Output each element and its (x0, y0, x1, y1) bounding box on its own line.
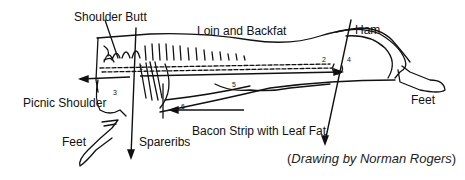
label-shoulder-butt: Shoulder Butt (74, 11, 147, 23)
cut-number-6: 6 (181, 103, 185, 110)
label-feet-rear: Feet (411, 94, 435, 106)
credit-text: Drawing by Norman Rogers (291, 151, 451, 166)
label-spareribs: Spareribs (139, 136, 190, 148)
pork-cuts-diagram: Shoulder Butt Loin and Backfat Ham Picni… (0, 0, 465, 180)
cut-number-3: 3 (113, 89, 117, 96)
credit-close-paren: ) (452, 151, 456, 166)
cut-number-4: 4 (347, 56, 351, 63)
label-loin-and-backfat: Loin and Backfat (197, 25, 286, 37)
label-ham: Ham (355, 24, 380, 36)
cut-number-1: 1 (139, 64, 143, 71)
label-feet-front: Feet (62, 136, 86, 148)
label-bacon-strip: Bacon Strip with Leaf Fat (192, 125, 326, 137)
cut-number-2: 2 (322, 56, 326, 63)
drawing-credit: (Drawing by Norman Rogers) (287, 152, 456, 165)
cut-number-5: 5 (232, 81, 236, 88)
label-picnic-shoulder: Picnic Shoulder (23, 97, 106, 109)
